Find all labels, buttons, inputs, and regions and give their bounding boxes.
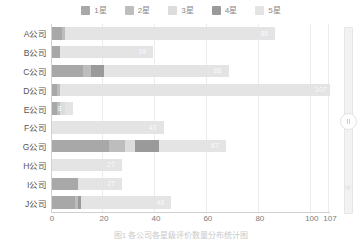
stacked-bar[interactable] [52, 140, 226, 152]
bar-segment-5星[interactable] [52, 121, 164, 133]
chart-screenshot: 1星2星3星4星5星 A公司86B公司39C公司68D公司107E公司8F公司4… [0, 0, 362, 241]
bar-row[interactable]: F公司43 [0, 118, 362, 137]
x-axis-tick-label: 40 [151, 214, 160, 223]
legend-swatch-icon [168, 6, 177, 15]
legend-swatch-icon [212, 6, 221, 15]
bar-row[interactable]: D公司107 [0, 80, 362, 99]
bar-segment-1星[interactable] [52, 46, 60, 58]
legend-label: 5星 [268, 6, 280, 15]
stacked-bar[interactable] [52, 84, 330, 96]
bar-row[interactable]: I公司27 [0, 174, 362, 193]
bar-segment-5星[interactable] [60, 84, 330, 96]
legend-label: 3星 [181, 6, 193, 15]
legend-swatch-icon [125, 6, 134, 15]
category-label: F公司 [0, 121, 47, 133]
bar-value-label: 8 [58, 104, 62, 114]
stacked-bar[interactable] [52, 27, 275, 39]
bar-segment-2星[interactable] [109, 140, 125, 152]
bar-value-label: 43 [149, 123, 157, 133]
category-label: C公司 [0, 65, 47, 77]
bar-segment-5星[interactable] [104, 65, 229, 77]
chart-bars: A公司86B公司39C公司68D公司107E公司8F公司43G公司67H公司27… [0, 24, 362, 212]
scroll-down-arrow-icon[interactable] [344, 186, 352, 191]
stacked-bar[interactable] [52, 196, 172, 208]
legend-item-4[interactable]: 4星 [212, 6, 237, 15]
bar-segment-1星[interactable] [52, 27, 62, 39]
legend-label: 4星 [225, 6, 237, 15]
category-label: E公司 [0, 103, 47, 115]
bar-row[interactable]: E公司8 [0, 99, 362, 118]
category-label: A公司 [0, 27, 47, 39]
scrollbar-drag-handle-icon[interactable] [340, 113, 357, 130]
legend-swatch-icon [255, 6, 264, 15]
bar-value-label: 67 [211, 141, 219, 151]
bar-value-label: 39 [138, 47, 146, 57]
chart-plot-area: A公司86B公司39C公司68D公司107E公司8F公司43G公司67H公司27… [0, 24, 362, 214]
bar-value-label: 27 [107, 179, 115, 189]
bar-segment-5星[interactable] [65, 102, 73, 114]
legend-item-5[interactable]: 5星 [255, 6, 280, 15]
bar-segment-2星[interactable] [83, 65, 91, 77]
legend-label: 1星 [94, 6, 106, 15]
bar-row[interactable]: H公司27 [0, 156, 362, 175]
bar-value-label: 46 [157, 198, 165, 208]
chart-legend: 1星2星3星4星5星 [0, 3, 362, 18]
bar-segment-1星[interactable] [52, 196, 75, 208]
bar-row[interactable]: C公司68 [0, 62, 362, 81]
bar-segment-4星[interactable] [91, 65, 104, 77]
bar-value-label: 86 [260, 29, 268, 39]
bar-segment-5星[interactable] [78, 178, 122, 190]
x-axis-ticks: 020406080100107 [0, 214, 362, 226]
category-label: G公司 [0, 140, 47, 152]
bar-segment-4星[interactable] [135, 140, 158, 152]
x-axis-tick-label: 100 [305, 214, 318, 223]
stacked-bar[interactable] [52, 65, 229, 77]
bar-segment-5星[interactable] [65, 27, 275, 39]
x-axis-tick-label: 60 [203, 214, 212, 223]
category-label: D公司 [0, 84, 47, 96]
bar-segment-3星[interactable] [125, 140, 135, 152]
category-label: I公司 [0, 178, 47, 190]
legend-item-1[interactable]: 1星 [81, 6, 106, 15]
category-label: H公司 [0, 159, 47, 171]
bar-row[interactable]: J公司46 [0, 193, 362, 212]
x-axis-tick-label: 20 [100, 214, 109, 223]
bar-value-label: 27 [107, 160, 115, 170]
legend-swatch-icon [81, 6, 90, 15]
category-label: J公司 [0, 197, 47, 209]
bar-segment-1星[interactable] [52, 140, 109, 152]
stacked-bar[interactable] [52, 121, 164, 133]
legend-item-2[interactable]: 2星 [125, 6, 150, 15]
bar-row[interactable]: G公司67 [0, 137, 362, 156]
bar-value-label: 107 [315, 85, 327, 95]
bar-segment-1星[interactable] [52, 178, 78, 190]
bar-segment-1星[interactable] [52, 65, 83, 77]
legend-item-3[interactable]: 3星 [168, 6, 193, 15]
category-label: B公司 [0, 46, 47, 58]
stacked-bar[interactable] [52, 102, 73, 114]
x-axis-line [51, 212, 330, 213]
x-axis-tick-label: 0 [50, 214, 54, 223]
x-axis-tick-label: 107 [323, 214, 336, 223]
x-axis-tick-label: 80 [255, 214, 264, 223]
figure-caption: 图1 各公司各星级评价数量分布统计图 [0, 229, 362, 240]
bar-row[interactable]: A公司86 [0, 24, 362, 43]
legend-label: 2星 [138, 6, 150, 15]
bar-value-label: 68 [214, 66, 222, 76]
bar-row[interactable]: B公司39 [0, 43, 362, 62]
